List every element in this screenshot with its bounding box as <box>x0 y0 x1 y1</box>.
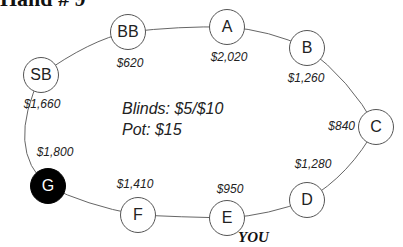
hero-label: YOU <box>238 229 269 246</box>
table-info: Blinds: $5/$10 Pot: $15 <box>122 98 223 140</box>
pot-text: Pot: $15 <box>122 119 223 140</box>
blinds-text: Blinds: $5/$10 <box>122 98 223 119</box>
stack-b: $1,260 <box>288 71 325 85</box>
stack-sb: $1,660 <box>24 97 61 111</box>
stack-g: $1,800 <box>37 145 74 159</box>
seat-a: A <box>209 9 245 45</box>
stack-a: $2,020 <box>211 50 248 64</box>
stack-c: $840 <box>328 119 355 133</box>
seat-b: B <box>289 30 325 66</box>
seat-d: D <box>289 182 325 218</box>
seat-bb: BB <box>110 14 146 50</box>
seat-sb: SB <box>23 57 59 93</box>
seat-g-dealer: G <box>30 168 66 204</box>
stack-e: $950 <box>217 182 244 196</box>
seat-c: C <box>358 109 394 145</box>
seat-f: F <box>120 197 156 233</box>
stack-bb: $620 <box>117 56 144 70</box>
stack-d: $1,280 <box>295 157 332 171</box>
stack-f: $1,410 <box>117 177 154 191</box>
